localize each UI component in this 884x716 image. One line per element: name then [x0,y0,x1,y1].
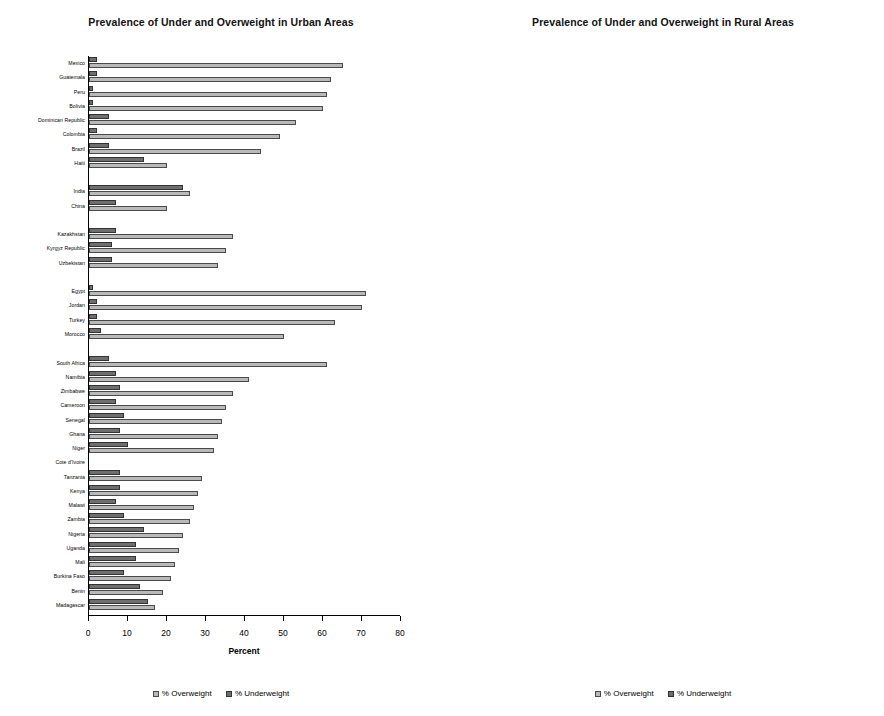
bar-row: Dominican Republic [88,113,400,127]
x-tick [400,616,401,621]
x-tick [361,616,362,621]
x-tick-label: 70 [356,628,365,638]
legend-swatch-overweight-icon [595,691,601,697]
bar-row: South Africa [88,355,400,369]
bar-row: Kazakhstan [88,227,400,241]
bar-row: Niger [88,441,400,455]
bar-overweight [89,92,327,97]
legend-swatch-underweight-icon [668,691,674,697]
bar-overweight [89,576,171,581]
bar-overweight [89,362,327,367]
bar-overweight [89,106,323,111]
bar-underweight [89,157,144,162]
category-label: Cote d'Ivoire [55,459,85,465]
bar-overweight [89,248,226,253]
x-tick-label: 10 [122,628,131,638]
category-label: India [74,188,86,194]
bar-overweight [89,163,167,168]
bar-underweight [89,413,124,418]
bar-underweight [89,314,97,319]
category-label: Nigeria [68,531,85,537]
bar-overweight [89,605,155,610]
category-label: Malawi [69,502,85,508]
legend-label-overweight: % Overweight [162,689,212,698]
x-tick-label: 0 [86,628,91,638]
bar-overweight [89,63,343,68]
bar-row: Uganda [88,541,400,555]
legend-swatch-underweight-icon [226,691,232,697]
category-label: Uzbekistan [59,260,85,266]
bar-row-spacer [88,170,400,184]
x-tick [88,616,89,621]
bar-overweight [89,77,331,82]
bar-underweight [89,185,183,190]
x-tick [166,616,167,621]
bar-underweight [89,257,112,262]
bar-overweight [89,120,296,125]
bar-overweight [89,263,218,268]
x-tick-label: 40 [239,628,248,638]
x-tick [205,616,206,621]
category-label: Haiti [74,160,85,166]
legend-item-underweight: % Underweight [668,689,731,698]
category-label: Namibia [66,374,85,380]
bar-row: Benin [88,583,400,597]
bar-overweight [89,562,175,567]
x-tick [244,616,245,621]
bar-underweight [89,299,97,304]
bar-row: Zimbabwe [88,384,400,398]
bar-row: Cote d'Ivoire [88,455,400,469]
category-label: Kyrgyz Republic [47,245,85,251]
bar-row: Nigeria [88,526,400,540]
bar-underweight [89,485,120,490]
bar-row: Jordan [88,298,400,312]
legend-item-underweight: % Underweight [226,689,289,698]
bar-overweight [89,448,214,453]
bar-underweight [89,442,128,447]
legend-label-underweight: % Underweight [677,689,731,698]
bar-overweight [89,134,280,139]
bar-underweight [89,428,120,433]
bar-underweight [89,542,136,547]
bar-underweight [89,385,120,390]
bar-row: Malawi [88,498,400,512]
x-tick-label: 50 [278,628,287,638]
category-label: Guatemala [59,74,85,80]
bar-row: Morocco [88,327,400,341]
bar-row: Guatemala [88,70,400,84]
category-label: Zimbabwe [61,388,85,394]
x-tick-label: 60 [317,628,326,638]
bar-row: Ghana [88,427,400,441]
chart-page: Prevalence of Under and Overweight in Ur… [0,0,884,716]
bar-overweight [89,391,233,396]
bar-underweight [89,57,97,62]
bar-row: Senegal [88,412,400,426]
bar-underweight [89,399,116,404]
bar-underweight [89,200,116,205]
bar-row: Uzbekistan [88,256,400,270]
category-label: Peru [74,89,85,95]
category-label: Uganda [67,545,85,551]
x-tick [127,616,128,621]
category-label: China [71,203,85,209]
category-label: Ghana [69,431,85,437]
category-label: Madagascar [56,602,85,608]
bar-underweight [89,242,112,247]
bar-row: Zambia [88,512,400,526]
bar-underweight [89,584,140,589]
bar-row: Mali [88,555,400,569]
bar-underweight [89,470,120,475]
category-label: Morocco [65,331,85,337]
bar-row: Turkey [88,313,400,327]
bar-overweight [89,476,202,481]
bar-underweight [89,599,148,604]
legend-item-overweight: % Overweight [595,689,654,698]
bar-row: Mexico [88,56,400,70]
bar-row: Haiti [88,156,400,170]
chart-title-rural: Prevalence of Under and Overweight in Ru… [442,16,884,28]
bar-overweight [89,377,249,382]
bar-row: China [88,199,400,213]
category-label: Niger [72,445,85,451]
bar-overweight [89,191,190,196]
bar-row: Brazil [88,142,400,156]
